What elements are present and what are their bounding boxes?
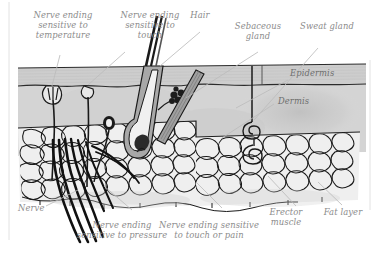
label-nerve-ending-temperature: Nerve ending sensitive to temperature: [17, 10, 109, 41]
label-dermis: Dermis: [278, 96, 338, 106]
label-nerve: Nerve: [18, 203, 66, 213]
label-nerve-ending-touch-pain: Nerve ending sensitive to touch or pain: [142, 220, 276, 240]
label-hair: Hair: [180, 10, 220, 20]
label-epidermis: Epidermis: [290, 68, 360, 78]
label-sweat-gland: Sweat gland: [286, 21, 368, 31]
label-sebaceous-gland: Sebaceous gland: [222, 21, 294, 41]
skin-diagram: Nerve ending sensitive to temperature Ne…: [0, 0, 377, 256]
label-erector-muscle: Erector muscle: [258, 207, 314, 227]
label-fat-layer: Fat layer: [314, 207, 372, 217]
